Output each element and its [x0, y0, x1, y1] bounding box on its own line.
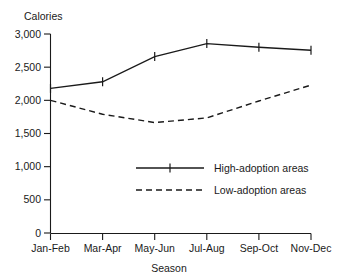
y-tick-label: 1,500 [15, 127, 41, 139]
legend-label-1: High-adoption areas [214, 162, 309, 174]
series-line-1 [51, 44, 312, 89]
calories-by-season-line-chart: Calories 05001,0001,5002,0002,5003,000 J… [0, 0, 338, 280]
y-axis-title: Calories [24, 10, 63, 22]
legend-label-2: Low-adoption areas [214, 184, 306, 196]
y-tick-label: 1,000 [15, 160, 41, 172]
x-tick-label: Jan-Feb [31, 242, 70, 254]
x-tick-label: May-Jun [135, 242, 175, 254]
data-series-group [51, 39, 312, 122]
series-line-2 [51, 85, 312, 122]
y-axis-ticks: 05001,0001,5002,0002,5003,000 [15, 28, 51, 239]
x-axis-group: Jan-FebMar-AprMay-JunJul-AugSep-OctNov-D… [31, 234, 331, 275]
x-tick-label: Nov-Dec [291, 242, 332, 254]
y-tick-label: 0 [35, 227, 41, 239]
y-axis-group: Calories 05001,0001,5002,0002,5003,000 [15, 10, 63, 239]
chart-legend: High-adoption areasLow-adoption areas [136, 162, 309, 196]
y-tick-label: 2,000 [15, 94, 41, 106]
x-axis-ticks: Jan-FebMar-AprMay-JunJul-AugSep-OctNov-D… [31, 234, 331, 255]
x-tick-label: Sep-Oct [240, 242, 279, 254]
x-tick-label: Mar-Apr [84, 242, 122, 254]
x-tick-label: Jul-Aug [189, 242, 225, 254]
chart-canvas: Calories 05001,0001,5002,0002,5003,000 J… [0, 0, 338, 280]
x-axis-title: Season [151, 262, 187, 274]
y-tick-label: 500 [23, 193, 41, 205]
y-tick-label: 3,000 [15, 28, 41, 40]
y-tick-label: 2,500 [15, 61, 41, 73]
